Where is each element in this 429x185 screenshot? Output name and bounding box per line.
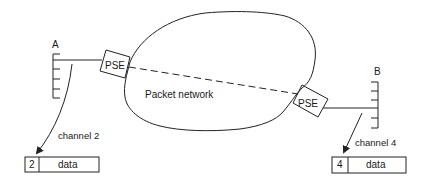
- node-a-label: A: [52, 39, 59, 50]
- channel-4-label: channel 4: [355, 137, 396, 148]
- pse-left-label: PSE: [105, 60, 125, 71]
- network-label: Packet network: [145, 89, 214, 100]
- packet-2-payload: data: [58, 159, 78, 170]
- packet-2-channel-number: 2: [29, 159, 35, 170]
- node-b-label: B: [374, 66, 381, 77]
- packet-4-payload: data: [366, 159, 386, 170]
- node-b: [323, 82, 378, 128]
- network-diagram: Packet network A PSE PSE B channel 2: [0, 0, 429, 185]
- node-a: [53, 54, 102, 98]
- channel-2-label: channel 2: [58, 130, 99, 141]
- packet-4-channel-number: 4: [337, 159, 343, 170]
- pse-right-label: PSE: [298, 98, 318, 109]
